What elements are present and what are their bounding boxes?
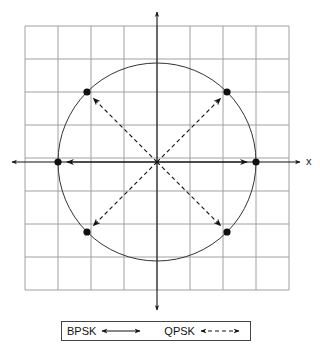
qpsk-vector — [93, 98, 157, 162]
dashed-double-arrow-icon — [197, 326, 243, 336]
constellation-point-qpsk-135 — [83, 88, 90, 95]
legend-item-qpsk: QPSK — [164, 325, 243, 337]
constellation-point-qpsk-45 — [223, 88, 230, 95]
qpsk-vector — [93, 162, 157, 226]
legend-label-bpsk: BPSK — [67, 325, 96, 337]
qpsk-vector — [157, 162, 221, 226]
constellation-point-qpsk-315 — [223, 228, 230, 235]
constellation-point-bpsk-0 — [252, 158, 259, 165]
constellation-diagram — [0, 0, 320, 356]
qpsk-vector — [157, 98, 221, 162]
x-axis-label: x — [306, 155, 312, 167]
legend-label-qpsk: QPSK — [164, 325, 195, 337]
solid-double-arrow-icon — [98, 326, 144, 336]
legend: BPSK QPSK — [61, 321, 251, 341]
constellation-point-bpsk-180 — [54, 158, 61, 165]
legend-item-bpsk: BPSK — [67, 325, 144, 337]
constellation-point-qpsk-225 — [83, 228, 90, 235]
